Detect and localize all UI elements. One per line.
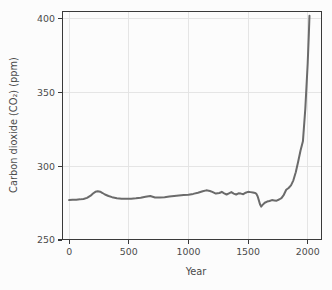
axis-lines-group	[62, 11, 322, 240]
x-tick-label: 1000	[176, 246, 200, 257]
y-tick-label: 300	[37, 161, 55, 172]
y-tick-label: 400	[37, 13, 55, 24]
x-tick-label: 2000	[296, 246, 320, 257]
co2-data-line	[69, 16, 309, 207]
x-tick-label: 0	[66, 246, 72, 257]
tick-labels-group: 2503003504000500100015002000	[37, 13, 320, 257]
tick-marks-group	[58, 18, 308, 244]
x-tick-label: 500	[120, 246, 138, 257]
x-tick-label: 1500	[236, 246, 260, 257]
gridlines-group	[62, 11, 322, 240]
chart-canvas: 2503003504000500100015002000 Carbon diox…	[0, 0, 332, 290]
y-tick-label: 250	[37, 234, 55, 245]
data-series-group	[69, 16, 309, 207]
y-axis-title: Carbon dioxide (CO₂) (ppm)	[8, 57, 19, 193]
y-tick-label: 350	[37, 87, 55, 98]
x-axis-title: Year	[185, 266, 208, 277]
co2-chart-figure: 2503003504000500100015002000 Carbon diox…	[0, 0, 332, 290]
